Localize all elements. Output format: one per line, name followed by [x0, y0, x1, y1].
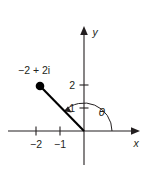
x-tick-label-minus1: −1: [54, 138, 66, 150]
complex-plane-figure: −2 + 2i −2 −1 1 2 x y θ: [0, 0, 149, 172]
x-axis-arrowhead: [131, 127, 140, 135]
y-tick-label-1: 1: [69, 102, 75, 114]
x-axis-label: x: [132, 137, 139, 149]
y-tick-label-2: 2: [69, 79, 75, 91]
point-label: −2 + 2i: [18, 64, 50, 76]
x-tick-label-minus2: −2: [30, 138, 42, 150]
figure-canvas: −2 + 2i −2 −1 1 2 x y θ: [0, 0, 149, 172]
theta-label: θ: [99, 106, 106, 118]
plotted-point: [36, 82, 45, 91]
y-axis-arrowhead: [80, 26, 88, 35]
y-axis-label: y: [91, 26, 98, 38]
vector-to-point: [41, 87, 84, 131]
